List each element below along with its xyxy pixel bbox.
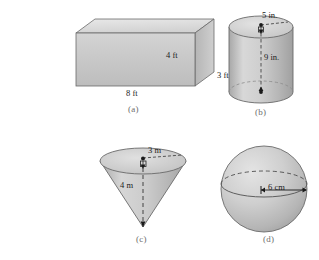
panel-caption-a: (a): [128, 104, 139, 114]
shape-cylinder: [229, 16, 293, 103]
dimension-label-cone-height: 4 m: [120, 180, 133, 190]
prism-top-face: [76, 19, 214, 33]
dimension-label-prism-height: 4 ft: [166, 50, 178, 60]
shape-rectangular-prism: [76, 19, 214, 86]
shape-cone: [100, 148, 186, 227]
dimension-label-cylinder-radius: 5 in.: [262, 10, 277, 20]
dimension-label-sphere-radius: 6 cm: [268, 182, 285, 192]
dimension-label-prism-width: 8 ft: [126, 88, 138, 98]
panel-caption-d: (d): [263, 234, 274, 244]
dimension-label-prism-depth: 3 ft: [217, 70, 229, 80]
shape-sphere: [221, 146, 307, 232]
panel-caption-c: (c): [136, 234, 147, 244]
cone-top-center-dot: [141, 157, 145, 161]
dimension-label-cylinder-height: 9 in.: [264, 52, 279, 62]
panel-caption-b: (b): [255, 107, 266, 117]
dimension-label-cone-radius: 3 m: [148, 145, 161, 155]
figure-canvas: [0, 0, 319, 260]
cylinder-top-center-dot: [259, 23, 263, 27]
